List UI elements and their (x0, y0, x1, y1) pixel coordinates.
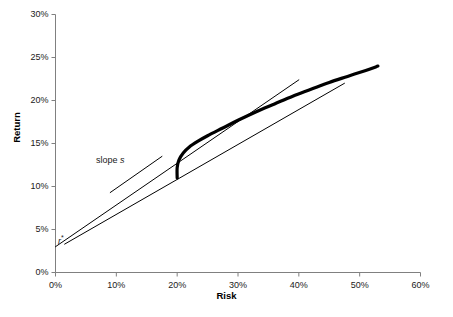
x-tick-label: 20% (152, 280, 202, 290)
y-tick-label: 30% (8, 9, 49, 19)
x-tick-label: 50% (335, 280, 385, 290)
risk-free-rate-star: * (61, 234, 64, 241)
y-tick-label: 10% (8, 181, 49, 191)
x-tick-label: 0% (31, 280, 81, 290)
slope-annotation-symbol: s (120, 155, 125, 165)
y-tick-label: 0% (8, 267, 49, 277)
slope-annotation-label: slope s (96, 155, 125, 165)
y-tick-label: 15% (8, 138, 49, 148)
plot-area (0, 0, 453, 317)
slope-annotation-text: slope (96, 155, 120, 165)
x-tick-label: 10% (91, 280, 141, 290)
x-tick-label: 60% (396, 280, 446, 290)
y-tick-label: 20% (8, 95, 49, 105)
x-tick-label: 30% (213, 280, 263, 290)
risk-free-rate-label: r* (58, 234, 64, 246)
y-tick-label: 5% (8, 224, 49, 234)
efficient-frontier-chart: Return Risk 0%5%10%15%20%25%30% 0%10%20%… (0, 0, 453, 317)
x-axis-title: Risk (0, 290, 453, 301)
series-capital-market-line (56, 80, 299, 247)
y-axis-title: Return (11, 98, 22, 158)
y-tick-label: 25% (8, 52, 49, 62)
x-tick-label: 40% (274, 280, 324, 290)
